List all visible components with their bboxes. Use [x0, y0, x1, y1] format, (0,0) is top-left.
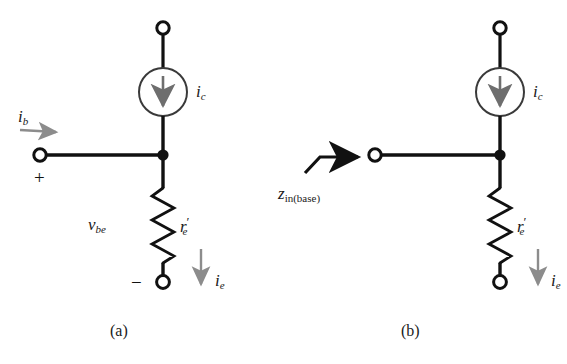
panel-caption-a: (a) — [110, 323, 128, 339]
top-terminal-b — [494, 22, 506, 34]
emitter-current-label-b: ie — [551, 272, 561, 291]
plus-sign-a: + — [34, 168, 45, 187]
resistor-label-b: r′e — [517, 218, 524, 237]
resistor-a — [152, 188, 174, 263]
collector-current-label-a: ic — [196, 83, 206, 102]
top-terminal-a — [157, 22, 169, 34]
collector-current-label-b: ic — [533, 83, 543, 102]
input-impedance-pointer-b — [305, 157, 358, 173]
emitter-current-label-a: ie — [215, 272, 225, 291]
base-current-arrow-a — [20, 130, 56, 132]
bottom-terminal-b — [494, 276, 507, 289]
bottom-terminal-a — [157, 276, 170, 289]
base-current-label-a: ib — [18, 108, 28, 127]
resistor-b — [489, 188, 511, 263]
panel-a-circuit — [20, 22, 201, 289]
resistor-label-a: r′e — [180, 218, 187, 237]
circuit-vector-layer — [0, 0, 567, 364]
panel-b-circuit — [305, 22, 538, 289]
minus-sign-a: − — [131, 273, 142, 292]
base-terminal-a — [34, 149, 46, 161]
input-impedance-label-b: zin(base) — [278, 185, 320, 204]
base-terminal-b — [369, 149, 381, 161]
panel-caption-b: (b) — [401, 323, 420, 339]
figure-canvas: ib + vbe − ic r′e ie (a) zin(base) ic r′… — [0, 0, 567, 364]
base-emitter-voltage-label-a: vbe — [88, 216, 106, 235]
